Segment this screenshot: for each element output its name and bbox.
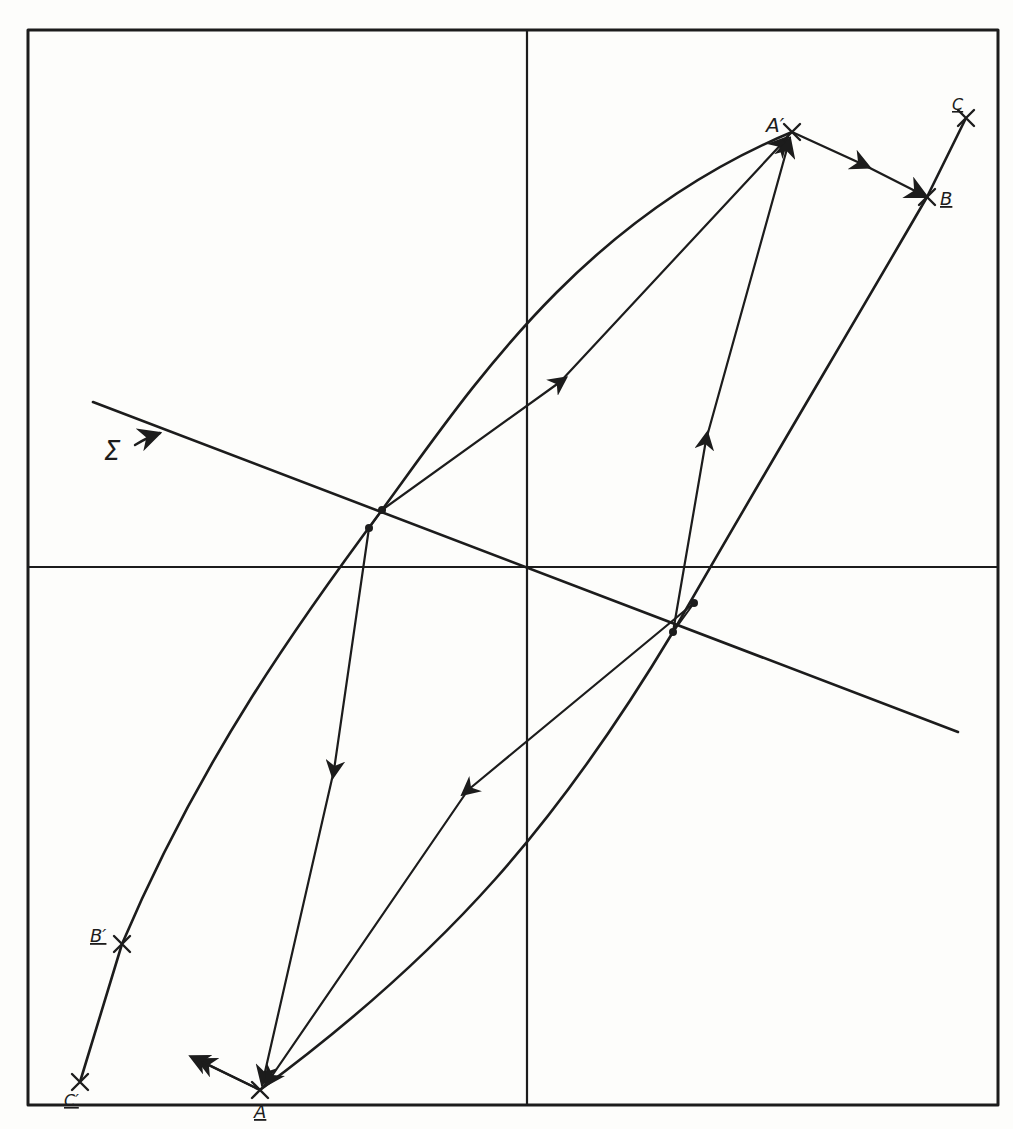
noop-10 <box>130 950 198 1060</box>
diagram-canvas: A′ B C A B′ C′ Σ <box>0 0 1013 1129</box>
noop-11 <box>127 947 198 1060</box>
ab-straight-layer <box>0 0 1013 1129</box>
